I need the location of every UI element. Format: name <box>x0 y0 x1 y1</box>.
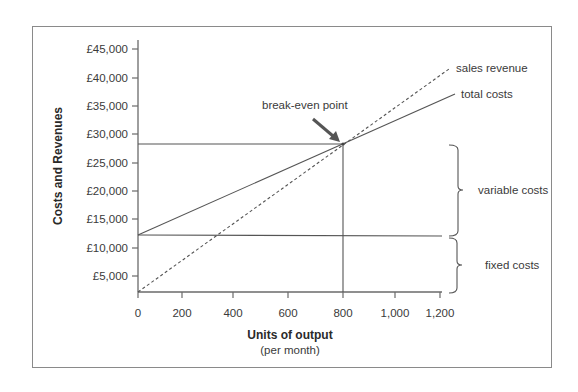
x-tick-label: 1,000 <box>381 307 410 319</box>
y-tick-label: £15,000 <box>86 213 128 225</box>
x-tick-label: 600 <box>278 307 297 319</box>
x-tick-label: 400 <box>223 307 242 319</box>
y-tick-label: £5,000 <box>93 270 128 282</box>
x-axis-title: Units of output <box>247 328 332 342</box>
fixed-costs-label: fixed costs <box>485 259 540 271</box>
y-tick-label: £30,000 <box>86 128 128 140</box>
fixed-costs-bracket <box>449 238 462 293</box>
x-axis: 02004006008001,0001,200 <box>135 292 455 319</box>
x-tick-label: 800 <box>333 307 352 319</box>
y-axis-title: Costs and Revenues <box>51 107 65 225</box>
break-even-arrow-icon <box>313 119 340 142</box>
x-tick-label: 1,200 <box>426 307 455 319</box>
sales-revenue-label: sales revenue <box>456 62 528 74</box>
y-tick-label: £40,000 <box>86 72 128 84</box>
break-even-label: break-even point <box>262 99 348 111</box>
variable-costs-label: variable costs <box>478 184 549 196</box>
x-axis-subtitle: (per month) <box>260 344 320 356</box>
total-costs-line <box>138 94 455 235</box>
y-tick-label: £35,000 <box>86 100 128 112</box>
break-even-point-marker <box>341 142 344 145</box>
y-tick-label: £25,000 <box>86 157 128 169</box>
x-tick-label: 200 <box>172 307 191 319</box>
variable-costs-bracket <box>449 145 463 236</box>
y-tick-label: £20,000 <box>86 185 128 197</box>
y-axis: £45,000£40,000£35,000£30,000£25,000£20,0… <box>86 40 138 292</box>
break-even-chart: £45,000£40,000£35,000£30,000£25,000£20,0… <box>0 0 578 392</box>
total-costs-label: total costs <box>461 88 513 100</box>
y-tick-label: £45,000 <box>86 43 128 55</box>
y-tick-label: £10,000 <box>86 242 128 254</box>
x-tick-label: 0 <box>135 307 141 319</box>
fixed-costs-line <box>138 235 442 236</box>
